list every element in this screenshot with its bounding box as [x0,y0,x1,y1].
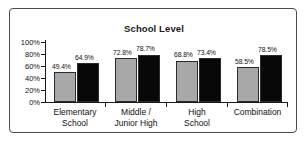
category-label-elementary: Elementary School [45,107,105,128]
y-tick-label-40: 40% [10,75,40,83]
category-label-middle-junior-high: Middle / Junior High [106,107,166,128]
bar-label-elementary-series-a: 49.4% [52,64,71,71]
plot-area: 49.4% 64.9% 72.8% 78.7% 68.8% 73.4% 58.5… [45,42,288,102]
chart-frame: School Level 100% 80% 60% 40% 20% 0% 49.… [9,8,297,133]
category-label-middle-junior-high-line1: Middle / [106,107,166,118]
category-label-elementary-line2: School [45,118,105,129]
bar-label-combination-series-b: 78.5% [258,47,277,54]
category-label-elementary-line1: Elementary [45,107,105,118]
bar-middle-junior-high-series-a[interactable] [115,58,137,102]
category-label-combination: Combination [227,107,288,118]
bar-high-school-series-a[interactable] [176,61,198,102]
category-label-high-school-line2: School [167,118,227,129]
bar-label-high-school-series-b: 73.4% [197,50,216,57]
bar-label-elementary-series-b: 64.9% [75,55,94,62]
bar-label-combination-series-a: 58.5% [235,59,254,66]
bar-elementary-series-b[interactable] [77,63,99,102]
category-label-high-school: High School [167,107,227,128]
y-axis: 100% 80% 60% 40% 20% 0% [10,9,40,134]
y-tick-label-60: 60% [10,63,40,71]
bar-elementary-series-a[interactable] [54,72,76,102]
bar-combination-series-b[interactable] [260,55,282,102]
bar-combination-series-a[interactable] [237,67,259,102]
y-tick-label-100: 100% [10,39,40,47]
category-label-high-school-line1: High [167,107,227,118]
y-tick-label-20: 20% [10,87,40,95]
bar-high-school-series-b[interactable] [199,58,221,102]
category-label-combination-line1: Combination [227,107,288,118]
chart-title: School Level [10,23,298,34]
bar-label-middle-junior-high-series-a: 72.8% [113,50,132,57]
y-tick-label-80: 80% [10,51,40,59]
bar-label-high-school-series-a: 68.8% [174,52,193,59]
bar-middle-junior-high-series-b[interactable] [138,55,160,102]
bar-label-middle-junior-high-series-b: 78.7% [136,46,155,53]
category-label-middle-junior-high-line2: Junior High [106,118,166,129]
y-tick-label-0: 0% [10,99,40,107]
